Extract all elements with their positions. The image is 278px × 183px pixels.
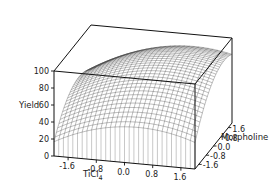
y-tick-label: -0.8: [210, 152, 226, 161]
x-tick-label: -1.6: [59, 162, 75, 171]
x-tick-label: 1.6: [174, 173, 187, 182]
y-axis-title: Morpholine: [221, 132, 268, 142]
z-tick-label: 60: [39, 101, 49, 110]
z-tick-label: 0: [44, 152, 49, 161]
x-tick-label: 0.8: [145, 170, 158, 179]
axis-ticks: [51, 71, 231, 171]
z-axis-title: Yield: [18, 100, 39, 110]
surface-mesh: [54, 46, 232, 169]
z-tick-label: 80: [39, 84, 49, 93]
z-tick-label: 100: [34, 67, 49, 76]
y-tick-label: -1.6: [203, 161, 219, 170]
surface-plot: 020406080100-1.6-0.80.00.81.6-1.6-0.80.0…: [0, 0, 278, 183]
z-tick-label: 40: [39, 118, 49, 127]
y-tick-label: 0.0: [218, 143, 231, 152]
z-tick-label: 20: [39, 135, 49, 144]
x-tick-label: 0.0: [117, 168, 130, 177]
